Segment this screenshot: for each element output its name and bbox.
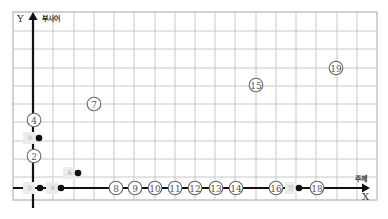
node-number: 16 [270,184,282,194]
node-number: 10 [149,184,161,194]
node-number: 8 [113,184,119,194]
node-number: 2 [31,152,37,162]
dot-node-5: ⑤ [46,182,64,194]
x-axis-label: X [362,191,370,202]
node-dot [75,170,82,177]
dot-node-17: ⑰ [285,182,302,194]
diagram-canvas: Y 부사어 주체 X ①③⑤⑥⑰ 24789101112131415161819 [0,0,388,219]
node-tag-label: ① [27,184,32,191]
node-number: 19 [330,64,342,74]
circled-node-7: 7 [87,97,101,111]
circled-node-15: 15 [249,78,263,92]
circled-node-18: 18 [310,181,324,195]
node-tag-label: ③ [27,134,32,141]
circled-node-12: 12 [188,181,202,195]
circled-node-4: 4 [27,113,41,127]
node-number: 13 [210,184,222,194]
node-number: 14 [230,184,242,194]
sentence-structure-diagram: Y 부사어 주체 X ①③⑤⑥⑰ 24789101112131415161819 [0,0,388,219]
node-dot [37,185,44,192]
node-number: 7 [91,100,97,110]
y-axis-arrow-icon [29,12,38,20]
circled-node-13: 13 [209,181,223,195]
node-number: 4 [31,116,37,126]
node-number: 15 [250,81,262,91]
node-number: 12 [189,184,200,194]
circled-node-9: 9 [128,181,142,195]
node-dot [296,185,303,192]
node-tag-label: ⑰ [288,184,294,192]
circled-node-16: 16 [269,181,283,195]
node-number: 11 [169,184,180,194]
node-tag-label: ⑥ [67,169,72,176]
circled-node-8: 8 [109,181,123,195]
node-number: 18 [311,184,323,194]
y-axis-label: Y [16,13,24,24]
node-dot [36,135,43,142]
y-axis-sublabel: 부사어 [42,14,60,23]
dot-node-1: ① [23,182,43,194]
circled-node-10: 10 [148,181,162,195]
dot-node-3: ③ [23,132,42,144]
x-axis-sublabel: 주체 [355,174,367,183]
node-number: 9 [132,184,138,194]
node-dot [58,185,65,192]
circled-node-11: 11 [168,181,182,195]
circled-node-19: 19 [329,61,343,75]
node-tag-label: ⑤ [50,184,55,191]
circled-node-2: 2 [27,149,41,163]
circled-node-14: 14 [229,181,243,195]
